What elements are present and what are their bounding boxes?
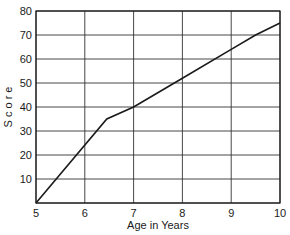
y-axis-label: S c o r e [2,87,14,128]
x-axis-ticks: 5678910 [33,207,286,219]
grid-lines [36,11,280,203]
y-tick-label: 70 [20,29,32,41]
y-axis-ticks: 1020304050607080 [20,5,32,185]
y-tick-label: 60 [20,53,32,65]
y-tick-label: 10 [20,173,32,185]
y-tick-label: 50 [20,77,32,89]
x-tick-label: 7 [131,207,137,219]
y-tick-label: 40 [20,101,32,113]
x-axis-label: Age in Years [127,219,189,231]
y-tick-label: 30 [20,125,32,137]
x-tick-label: 6 [82,207,88,219]
x-tick-label: 10 [274,207,286,219]
x-tick-label: 9 [228,207,234,219]
y-tick-label: 80 [20,5,32,17]
score-line [36,23,280,203]
y-tick-label: 20 [20,149,32,161]
line-chart: 1020304050607080 5678910 Age in Years S … [0,0,290,235]
x-tick-label: 8 [179,207,185,219]
x-tick-label: 5 [33,207,39,219]
